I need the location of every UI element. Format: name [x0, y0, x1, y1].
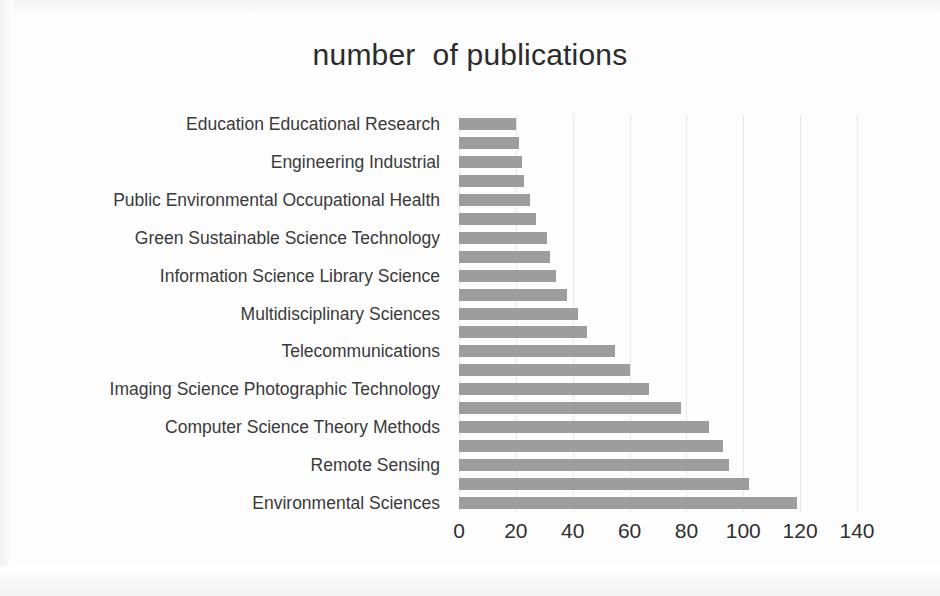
category-label: Information Science Library Science [160, 267, 440, 286]
scan-edge-bottom [0, 566, 940, 596]
bar-row[interactable] [459, 456, 857, 475]
bar-row[interactable] [459, 418, 857, 437]
bar-row[interactable] [459, 286, 857, 305]
bar[interactable] [459, 118, 516, 130]
bar-row[interactable] [459, 361, 857, 380]
bar[interactable] [459, 364, 630, 376]
bar-row[interactable] [459, 305, 857, 324]
bar-row[interactable] [459, 172, 857, 191]
bar[interactable] [459, 383, 649, 395]
bar-row[interactable] [459, 475, 857, 494]
bar-row[interactable] [459, 248, 857, 267]
category-label: Green Sustainable Science Technology [135, 229, 440, 248]
bar[interactable] [459, 497, 797, 509]
bar-row[interactable] [459, 153, 857, 172]
category-label: Remote Sensing [311, 456, 440, 475]
bar[interactable] [459, 440, 723, 452]
bar-row[interactable] [459, 267, 857, 286]
bar[interactable] [459, 459, 729, 471]
bar[interactable] [459, 194, 530, 206]
category-label: Telecommunications [281, 342, 440, 361]
bar-row[interactable] [459, 229, 857, 248]
bar[interactable] [459, 345, 615, 357]
value-axis-tick-labels: 020406080100120140 [459, 519, 857, 553]
category-label: Imaging Science Photographic Technology [110, 380, 440, 399]
bar[interactable] [459, 402, 681, 414]
x-tick-label-40: 40 [561, 519, 584, 543]
bar-row[interactable] [459, 399, 857, 418]
category-label: Computer Science Theory Methods [165, 418, 440, 437]
category-label: Engineering Industrial [271, 153, 440, 172]
x-tick-label-120: 120 [783, 519, 818, 543]
bar-row[interactable] [459, 437, 857, 456]
bar[interactable] [459, 326, 587, 338]
bar-row[interactable] [459, 191, 857, 210]
bar-row[interactable] [459, 115, 857, 134]
x-tick-label-80: 80 [675, 519, 698, 543]
x-tick-label-100: 100 [726, 519, 761, 543]
bar[interactable] [459, 308, 578, 320]
gridline-140 [857, 115, 858, 513]
bar[interactable] [459, 270, 556, 282]
bar-row[interactable] [459, 210, 857, 229]
bar[interactable] [459, 156, 522, 168]
bar-chart-figure: number of publications Education Educati… [0, 0, 940, 596]
bar[interactable] [459, 175, 524, 187]
bar[interactable] [459, 232, 547, 244]
category-label: Environmental Sciences [252, 494, 440, 513]
chart-title: number of publications [0, 38, 940, 72]
category-label: Education Educational Research [186, 115, 440, 134]
bar[interactable] [459, 213, 536, 225]
plot-area [459, 115, 857, 513]
bar-row[interactable] [459, 380, 857, 399]
bar[interactable] [459, 478, 749, 490]
bar-row[interactable] [459, 342, 857, 361]
bar[interactable] [459, 421, 709, 433]
bar-row[interactable] [459, 323, 857, 342]
x-tick-label-0: 0 [453, 519, 465, 543]
scan-edge-top [0, 0, 940, 16]
category-label: Public Environmental Occupational Health [113, 191, 440, 210]
bar-row[interactable] [459, 134, 857, 153]
bar[interactable] [459, 137, 519, 149]
category-label: Multidisciplinary Sciences [241, 305, 440, 324]
x-tick-label-60: 60 [618, 519, 641, 543]
bar[interactable] [459, 251, 550, 263]
bar[interactable] [459, 289, 567, 301]
x-tick-label-140: 140 [839, 519, 874, 543]
bar-row[interactable] [459, 494, 857, 513]
category-axis-labels: Education Educational ResearchEngineerin… [10, 115, 450, 513]
x-tick-label-20: 20 [504, 519, 527, 543]
